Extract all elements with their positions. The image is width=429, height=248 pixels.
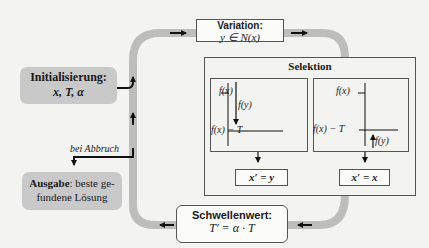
- init-title: Initialisierung:: [20, 70, 117, 85]
- result-accept: x′ = y: [235, 169, 288, 186]
- loop-path-bottom: [288, 195, 345, 225]
- right-fy-label: f(y): [375, 135, 389, 146]
- init-vars: x, T, α: [20, 85, 117, 100]
- output-box: Ausgabe: beste ge- fundene Lösung: [22, 172, 122, 210]
- right-fx-label: f(x): [336, 85, 350, 96]
- variation-formula: y ∈ N(x): [197, 32, 283, 42]
- loop-path-right: [283, 33, 345, 57]
- left-fy-label: f(y): [238, 99, 252, 110]
- output-text2: fundene Lösung: [22, 190, 122, 204]
- init-box: Initialisierung: x, T, α: [20, 67, 117, 104]
- right-fxT-label: f(x) − T: [313, 123, 344, 134]
- selection-right-panel: [313, 78, 409, 152]
- output-text: : beste ge-: [70, 177, 115, 189]
- variation-box: Variation: y ∈ N(x): [196, 19, 284, 42]
- selection-title: Selektion: [205, 60, 415, 72]
- threshold-formula: T′ = α · T: [177, 221, 287, 236]
- loop-path: [133, 33, 196, 225]
- result-reject: x′ = x: [339, 169, 390, 186]
- threshold-title: Schwellenwert:: [177, 209, 287, 221]
- threshold-box: Schwellenwert: T′ = α · T: [176, 205, 288, 243]
- output-title: Ausgabe: [29, 177, 69, 189]
- left-fx-label: f(x): [219, 85, 233, 96]
- abort-label: bei Abbruch: [70, 143, 119, 154]
- variation-title: Variation:: [197, 21, 283, 31]
- left-fxT-label: f(x) − T: [211, 124, 242, 135]
